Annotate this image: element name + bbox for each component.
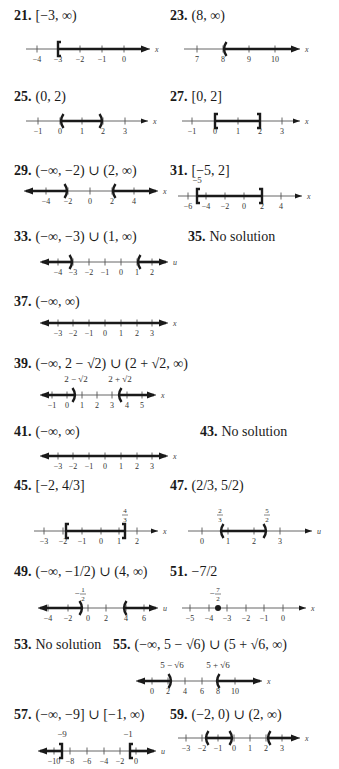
number-line-23: 78910x xyxy=(184,42,309,64)
tick-label: 0 xyxy=(122,55,126,64)
tick-label: −1 xyxy=(188,127,197,136)
number-line-39: −1012345x2 − √22 + √2 xyxy=(40,374,165,410)
tick-label: −3 xyxy=(182,744,191,753)
tick-label: −4 xyxy=(100,757,109,766)
axis-variable-label: x xyxy=(162,187,167,196)
tick-label: 8 xyxy=(221,55,225,64)
arrow-left-icon xyxy=(38,748,47,755)
tick-label: −2 xyxy=(69,329,78,338)
arrow-right-icon xyxy=(293,119,300,124)
tick-label: −1 xyxy=(260,614,269,623)
tick-label: −1 xyxy=(98,55,107,64)
number-line-graphics: −4−3−2−10x78910x−10123x−10123x−4−2024x−6… xyxy=(0,0,339,769)
tick-label: 2 xyxy=(135,537,139,546)
tick-label: −4 xyxy=(54,268,63,277)
tick-label: 0 xyxy=(103,329,107,338)
fraction-numerator: 2 xyxy=(218,507,222,515)
tick-label: 2 xyxy=(110,197,114,206)
axis-variable-label: u xyxy=(173,258,177,267)
tick-label: 0 xyxy=(134,757,138,766)
tick-label: −8 xyxy=(66,757,75,766)
number-line-57: −10−8−6−4−20u−9−1 xyxy=(38,729,165,766)
tick-label: −2 xyxy=(221,202,230,211)
tick-label: 0 xyxy=(103,462,107,471)
axis-variable-label: x xyxy=(304,45,309,54)
axis-variable-label: x xyxy=(152,117,157,126)
tick-label: 1 xyxy=(117,537,121,546)
tick-label: 0 xyxy=(200,537,204,546)
arrow-left-icon xyxy=(40,453,49,460)
tick-label: 0 xyxy=(242,202,246,211)
arrow-right-icon xyxy=(291,46,300,53)
tick-label: −3 xyxy=(223,614,232,623)
arrow-left-icon xyxy=(38,605,47,612)
arrow-right-icon xyxy=(141,46,150,53)
tick-label: −1 xyxy=(78,537,87,546)
tick-label: 3 xyxy=(278,537,282,546)
tick-label: −1 xyxy=(48,401,57,410)
tick-label: 4 xyxy=(132,197,136,206)
number-line-37: −3−2−10123x xyxy=(40,319,177,338)
arrow-right-icon xyxy=(305,529,312,534)
fraction-numerator: 5 xyxy=(265,507,269,515)
axis-variable-label: x xyxy=(304,734,309,743)
tick-label: 3 xyxy=(110,401,114,410)
tick-label: 3 xyxy=(123,127,127,136)
axis-variable-label: u xyxy=(161,747,165,756)
number-line-59: −3−2−10123x xyxy=(178,731,309,753)
tick-label: 0 xyxy=(150,687,154,696)
tick-label: −3 xyxy=(40,537,49,546)
tick-label: 3 xyxy=(280,127,284,136)
fraction-denominator: 2 xyxy=(216,595,220,603)
tick-label: 0 xyxy=(65,401,69,410)
tick-label: −4 xyxy=(202,202,211,211)
arrow-right-icon xyxy=(149,605,158,612)
tick-label: 2 xyxy=(135,462,139,471)
fraction-denominator: 3 xyxy=(218,516,222,524)
arrow-left-icon xyxy=(40,259,49,266)
number-line-49: −4−20246u−12 xyxy=(38,586,167,623)
point-label: 5 − √6 xyxy=(160,660,184,670)
tick-label: 3 xyxy=(150,462,154,471)
tick-label: 0 xyxy=(58,127,62,136)
arrow-left-icon xyxy=(40,320,49,327)
tick-label: −1 xyxy=(85,462,94,471)
fraction-denominator: 2 xyxy=(265,516,269,524)
tick-label: −4 xyxy=(42,197,51,206)
fraction-numerator: 1 xyxy=(81,586,85,594)
axis-variable-label: x xyxy=(160,391,165,400)
tick-label: 3 xyxy=(150,329,154,338)
arrow-right-icon xyxy=(149,188,158,195)
point-label: −9 xyxy=(57,729,67,739)
tick-label: 1 xyxy=(119,462,123,471)
arrow-left-icon xyxy=(24,188,33,195)
axis-variable-label: x xyxy=(172,452,177,461)
arrow-right-icon xyxy=(141,119,148,124)
fraction-denominator: 3 xyxy=(123,516,127,524)
number-line-29: −4−2024x xyxy=(24,184,167,206)
tick-label: −4 xyxy=(44,614,53,623)
tick-label: 2 xyxy=(95,401,99,410)
arrow-right-icon xyxy=(147,748,156,755)
tick-label: 1 xyxy=(119,329,123,338)
point-label: −1 xyxy=(123,729,133,739)
tick-label: −3 xyxy=(54,329,63,338)
axis-variable-label: u xyxy=(163,604,167,613)
tick-label: −2 xyxy=(85,268,94,277)
tick-label: 1 xyxy=(236,127,240,136)
tick-label: 1 xyxy=(80,127,84,136)
tick-label: 4 xyxy=(125,401,129,410)
fraction-numerator: 7 xyxy=(216,586,220,594)
axis-variable-label: x xyxy=(310,604,315,613)
axis-variable-label: u xyxy=(317,527,321,536)
arrow-right-icon xyxy=(253,678,262,685)
tick-label: 1 xyxy=(226,537,230,546)
arrow-right-icon xyxy=(299,606,306,611)
arrow-left-icon xyxy=(40,392,49,399)
arrow-right-icon xyxy=(159,259,168,266)
axis-variable-label: x xyxy=(304,117,309,126)
tick-label: 10 xyxy=(271,55,279,64)
number-line-25: −10123x xyxy=(26,114,157,136)
tick-label: 1 xyxy=(135,268,139,277)
axis-variable-label: x xyxy=(162,527,167,536)
